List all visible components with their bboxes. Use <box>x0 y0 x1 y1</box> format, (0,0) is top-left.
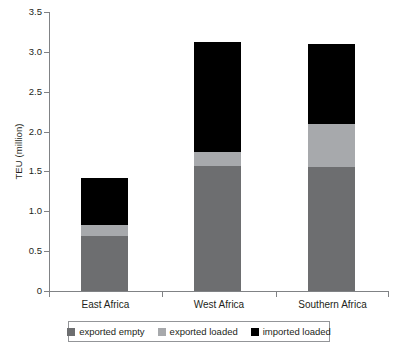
y-axis-tick-label: 0 <box>12 286 42 296</box>
x-axis-tick <box>162 291 163 297</box>
bar-segment[interactable] <box>308 124 355 166</box>
y-axis-tick-label: 0.5 <box>12 246 42 256</box>
x-axis-line <box>49 291 388 292</box>
chart-legend: exported emptyexported loadedimported lo… <box>68 321 330 342</box>
x-axis-category-label: Southern Africa <box>273 299 393 310</box>
x-axis-tick <box>276 291 277 297</box>
x-axis-category-label: East Africa <box>46 299 166 310</box>
legend-label: exported empty <box>79 326 144 337</box>
y-axis-tick-label: 3.0 <box>12 47 42 57</box>
y-axis-tick-label: 3.5 <box>12 7 42 17</box>
bar-segment[interactable] <box>81 236 128 291</box>
x-axis-tick <box>49 291 50 297</box>
bar-segment[interactable] <box>81 225 128 236</box>
stacked-bar-chart: TEU (million) 00.51.01.52.02.53.03.5 Eas… <box>0 0 396 355</box>
legend-swatch-icon <box>67 328 75 336</box>
legend-label: exported loaded <box>170 326 238 337</box>
y-axis-tick-label: 1.5 <box>12 166 42 176</box>
bar-segment[interactable] <box>194 152 241 166</box>
bar-segment[interactable] <box>194 166 241 291</box>
x-axis-category-label: West Africa <box>159 299 279 310</box>
legend-item[interactable]: exported loaded <box>158 326 238 337</box>
y-axis-tick-label: 2.0 <box>12 127 42 137</box>
y-axis-tick-label: 2.5 <box>12 87 42 97</box>
x-axis-tick <box>388 291 389 297</box>
legend-label: imported loaded <box>263 326 331 337</box>
legend-item[interactable]: imported loaded <box>251 326 331 337</box>
y-axis-title: TEU (million) <box>13 87 24 217</box>
bar-segment[interactable] <box>194 42 241 152</box>
bar-segment[interactable] <box>81 178 128 225</box>
y-axis-tick-label: 1.0 <box>12 206 42 216</box>
plot-area <box>49 12 388 291</box>
bar-segment[interactable] <box>308 167 355 291</box>
bar-segment[interactable] <box>308 44 355 125</box>
legend-swatch-icon <box>251 328 259 336</box>
legend-swatch-icon <box>158 328 166 336</box>
legend-item[interactable]: exported empty <box>67 326 144 337</box>
